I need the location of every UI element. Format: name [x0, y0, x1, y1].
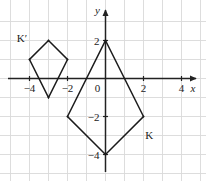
axes: [8, 10, 196, 172]
x-axis-label: x: [190, 82, 196, 94]
x-tick-label: −4: [24, 82, 36, 94]
coordinate-plane-figure: −4−2242−2−40xyKK′: [0, 0, 206, 181]
x-tick-label: 2: [141, 82, 147, 94]
x-tick-label: −2: [62, 82, 74, 94]
y-axis-label: y: [94, 4, 100, 16]
origin-label: 0: [95, 82, 101, 94]
vertex-point: [67, 59, 69, 61]
shape-label-k: K: [145, 129, 153, 141]
y-tick-label: 2: [94, 35, 100, 47]
graph-canvas: −4−2242−2−40xyKK′: [0, 0, 206, 181]
vertex-point: [48, 40, 50, 42]
x-tick-label: 4: [179, 82, 185, 94]
vertex-point: [48, 97, 50, 99]
shape-label-k-prime: K′: [17, 32, 27, 44]
y-tick-label: −2: [88, 111, 100, 123]
vertex-point: [105, 154, 107, 156]
vertex-point: [67, 116, 69, 118]
vertex-point: [143, 116, 145, 118]
y-tick-label: −4: [88, 149, 100, 161]
vertex-point: [29, 59, 31, 61]
vertex-point: [105, 40, 107, 42]
